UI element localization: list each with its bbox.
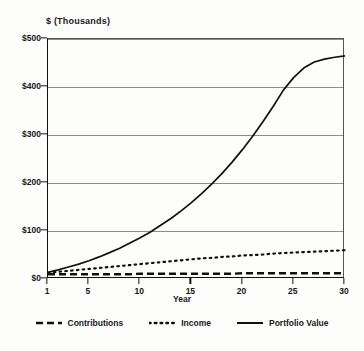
series-line-contributions — [48, 273, 345, 274]
series-layer — [48, 39, 345, 279]
y-tick-label: $300 — [22, 129, 41, 139]
x-tick-mark — [343, 278, 344, 284]
legend-label: Portfolio Value — [269, 318, 329, 328]
y-axis-unit-title: $ (Thousands) — [46, 16, 110, 26]
legend-label: Income — [181, 318, 211, 328]
x-tick-mark — [87, 278, 88, 284]
legend-swatch-dotted-icon — [149, 319, 175, 327]
x-tick-mark — [139, 278, 140, 284]
plot-inner — [48, 39, 343, 277]
y-tick-label: $0 — [32, 273, 41, 283]
series-line-portfolio-value — [48, 56, 345, 272]
y-tick-label: $100 — [22, 225, 41, 235]
y-tick-label: $200 — [22, 177, 41, 187]
legend-item-contributions[interactable]: Contributions — [36, 318, 124, 328]
legend-swatch-solid-icon — [237, 319, 263, 327]
legend-swatch-dashed-icon — [36, 319, 62, 327]
plot-area — [47, 38, 344, 278]
x-tick-mark — [46, 278, 47, 284]
x-axis-title: Year — [0, 294, 364, 304]
legend-item-income[interactable]: Income — [149, 318, 211, 328]
legend-item-portfolio-value[interactable]: Portfolio Value — [237, 318, 329, 328]
x-tick-mark — [241, 278, 242, 284]
y-axis-labels: $0$100$200$300$400$500 — [0, 38, 41, 278]
x-tick-mark — [190, 278, 191, 284]
x-tick-mark — [292, 278, 293, 284]
legend-label: Contributions — [68, 318, 124, 328]
chart-legend: ContributionsIncomePortfolio Value — [0, 318, 364, 328]
series-line-income — [48, 250, 345, 273]
y-tick-label: $500 — [22, 33, 41, 43]
chart-container: $ (Thousands) $0$100$200$300$400$500 151… — [0, 0, 364, 351]
y-tick-label: $400 — [22, 81, 41, 91]
